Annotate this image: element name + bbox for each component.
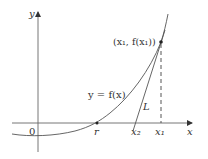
point-label: (x₁, f(x₁)) [113, 36, 156, 47]
y-axis-label: y [28, 8, 35, 19]
x1-label: x₁ [155, 126, 165, 137]
curve-f [12, 14, 168, 136]
root-point-r [96, 122, 99, 125]
curve-label: y = f(x) [87, 89, 126, 100]
tangent-label: L [142, 101, 150, 112]
x2-label: x₂ [131, 126, 141, 137]
x-axis-label: x [187, 126, 193, 137]
newton-method-diagram: y 0 x r x₂ x₁ y = f(x) L (x₁, f(x₁)) [0, 0, 208, 159]
origin-label: 0 [29, 126, 35, 137]
point-x1-fx1 [159, 40, 163, 44]
root-label: r [94, 126, 100, 137]
